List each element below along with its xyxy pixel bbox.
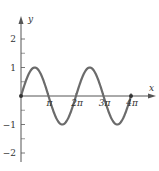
x-tick-label: 2π xyxy=(70,98,84,108)
x-axis-arrow-icon xyxy=(148,94,156,99)
x-tick-label: 3π xyxy=(99,98,112,108)
y-axis-arrow-icon xyxy=(19,16,24,24)
x-axis-label: x xyxy=(149,83,154,93)
point-marker xyxy=(19,94,23,98)
sine-chart: yx21−1−2π2π3π4π xyxy=(0,0,159,171)
y-axis-label: y xyxy=(27,14,34,24)
y-tick-label: 2 xyxy=(10,34,16,44)
axes xyxy=(19,16,157,162)
x-tick-label: π xyxy=(46,98,54,108)
x-tick-label: 4π xyxy=(125,98,139,108)
y-tick-label: 1 xyxy=(10,63,16,73)
y-tick-label: −1 xyxy=(3,120,16,130)
y-tick-label: −2 xyxy=(3,148,16,158)
